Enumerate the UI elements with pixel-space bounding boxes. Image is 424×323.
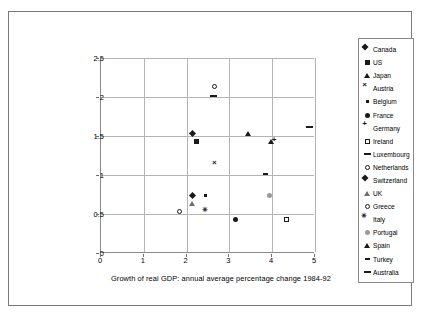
legend-item-label: Turkey xyxy=(373,256,393,263)
x-axis-tick-label: 3 xyxy=(213,256,243,265)
data-point-turkey xyxy=(265,174,270,176)
x-axis-tick-label: 5 xyxy=(299,256,329,265)
x-axis-tick-label: 2 xyxy=(171,256,201,265)
legend-item-austria[interactable]: ×Austria xyxy=(362,82,411,95)
legend-item-label: Ireland xyxy=(373,138,393,145)
x-axis-tick-label: 0 xyxy=(85,256,115,265)
legend-marker-icon xyxy=(362,137,372,146)
legend-item-label: UK xyxy=(373,190,382,197)
legend-item-france[interactable]: France xyxy=(362,108,411,121)
gridline-vertical xyxy=(315,58,316,252)
legend-item-portugal[interactable]: Portugal xyxy=(362,226,411,239)
legend-item-italy[interactable]: ✳Italy xyxy=(362,213,411,226)
legend-marker-icon xyxy=(362,202,372,211)
legend-item-netherlands[interactable]: Netherlands xyxy=(362,161,411,174)
chart-frame: Employment growth: annual average percen… xyxy=(8,11,412,306)
legend-item-greece[interactable]: Greece xyxy=(362,200,411,213)
data-point-netherlands xyxy=(214,87,219,92)
legend-item-label: Luxembourg xyxy=(373,151,410,158)
data-point-australia xyxy=(309,127,316,129)
x-axis-tick-mark xyxy=(228,254,229,257)
legend-item-germany[interactable]: +Germany xyxy=(362,122,411,135)
x-axis-tick-mark xyxy=(186,254,187,257)
legend-item-us[interactable]: US xyxy=(362,56,411,69)
legend-marker-icon: ✳ xyxy=(362,215,372,224)
legend-item-label: Spain xyxy=(373,242,390,249)
legend-item-luxembourg[interactable]: Luxembourg xyxy=(362,148,411,161)
legend-item-label: Netherlands xyxy=(373,164,409,171)
gridline-horizontal xyxy=(101,136,314,137)
legend-item-belgium[interactable]: Belgium xyxy=(362,95,411,108)
legend-item-label: Greece xyxy=(373,203,395,210)
y-axis-tick-mark xyxy=(96,97,99,98)
chart-legend: CanadaUSJapan×AustriaBelgiumFrance+Germa… xyxy=(358,38,414,283)
data-point-canada xyxy=(193,134,198,139)
plot-area: ×+✳ xyxy=(100,58,314,253)
legend-marker-icon xyxy=(362,241,372,250)
data-point-italy: ✳ xyxy=(205,210,211,218)
legend-marker-icon: + xyxy=(362,124,372,133)
legend-item-canada[interactable]: Canada xyxy=(362,43,411,56)
legend-item-label: Australia xyxy=(373,269,399,276)
y-axis-tick-mark xyxy=(96,58,99,59)
y-axis-tick-mark xyxy=(96,175,99,176)
legend-item-label: US xyxy=(373,59,382,66)
data-point-ireland xyxy=(287,219,292,224)
legend-item-spain[interactable]: Spain xyxy=(362,239,411,252)
x-axis-tick-label: 1 xyxy=(128,256,158,265)
gridline-horizontal xyxy=(101,58,314,59)
legend-marker-icon xyxy=(362,268,372,277)
gridline-vertical xyxy=(144,58,145,252)
legend-marker-icon: × xyxy=(362,84,372,93)
legend-marker-icon xyxy=(362,255,372,264)
data-point-spain xyxy=(271,141,277,146)
legend-item-label: Germany xyxy=(373,125,400,132)
legend-item-switzerland[interactable]: Switzerland xyxy=(362,174,411,187)
data-point-luxembourg xyxy=(213,96,220,98)
data-point-greece xyxy=(180,212,185,217)
gridline-vertical xyxy=(229,58,230,252)
legend-item-label: Switzerland xyxy=(373,177,407,184)
legend-marker-icon xyxy=(362,97,372,106)
legend-item-ireland[interactable]: Ireland xyxy=(362,135,411,148)
gridline-horizontal xyxy=(101,97,314,98)
data-point-uk xyxy=(192,204,198,209)
legend-item-label: France xyxy=(373,112,394,119)
legend-item-label: Canada xyxy=(373,46,396,53)
x-axis-tick-label: 4 xyxy=(256,256,286,265)
y-axis-title-line2: 1984-92 xyxy=(0,0,3,2)
x-axis-tick-mark xyxy=(271,254,272,257)
legend-item-japan[interactable]: Japan xyxy=(362,69,411,82)
data-point-us xyxy=(197,141,202,146)
legend-item-label: Japan xyxy=(373,72,391,79)
y-axis-title: Employment growth: annual average percen… xyxy=(0,0,3,2)
x-axis-tick-mark xyxy=(143,254,144,257)
gridline-vertical xyxy=(187,58,188,252)
legend-marker-icon xyxy=(362,176,372,185)
legend-marker-icon xyxy=(362,150,372,159)
data-point-japan xyxy=(248,134,254,139)
gridline-vertical xyxy=(272,58,273,252)
y-axis-tick-mark xyxy=(96,136,99,137)
legend-item-uk[interactable]: UK xyxy=(362,187,411,200)
legend-marker-icon xyxy=(362,163,372,172)
x-axis-tick-mark xyxy=(314,254,315,257)
legend-item-turkey[interactable]: Turkey xyxy=(362,253,411,266)
legend-item-label: Belgium xyxy=(373,98,397,105)
data-point-austria: × xyxy=(214,163,219,171)
legend-item-label: Portugal xyxy=(373,229,398,236)
y-axis-tick-mark xyxy=(96,214,99,215)
legend-marker-icon xyxy=(362,189,372,198)
data-point-france xyxy=(235,219,240,224)
data-point-belgium xyxy=(206,196,211,201)
legend-marker-icon xyxy=(362,45,372,54)
legend-item-label: Italy xyxy=(373,216,385,223)
gridline-horizontal xyxy=(101,175,314,176)
legend-item-australia[interactable]: Australia xyxy=(362,266,411,279)
data-point-portugal xyxy=(270,196,275,201)
x-axis-tick-mark xyxy=(100,254,101,257)
data-point-switzerland xyxy=(193,196,198,201)
y-axis-tick-mark xyxy=(96,253,99,254)
legend-item-label: Austria xyxy=(373,85,394,92)
legend-marker-icon xyxy=(362,58,372,67)
